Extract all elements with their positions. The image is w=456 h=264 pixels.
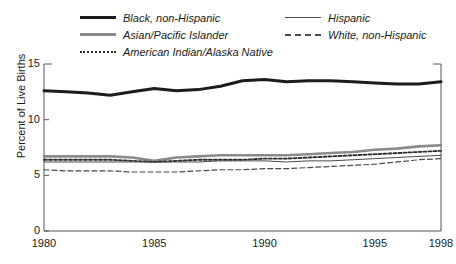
x-axis-tick-labels: 19801985199019951998 (0, 0, 456, 264)
x-axis-tick-label: 1980 (24, 238, 64, 249)
x-axis-tick-label: 1990 (245, 238, 285, 249)
x-axis-tick-label: 1995 (355, 238, 395, 249)
x-axis-tick-label: 1985 (134, 238, 174, 249)
chart-figure: Black, non-Hispanic Asian/Pacific Island… (0, 0, 456, 264)
x-axis-tick-label: 1998 (421, 238, 456, 249)
